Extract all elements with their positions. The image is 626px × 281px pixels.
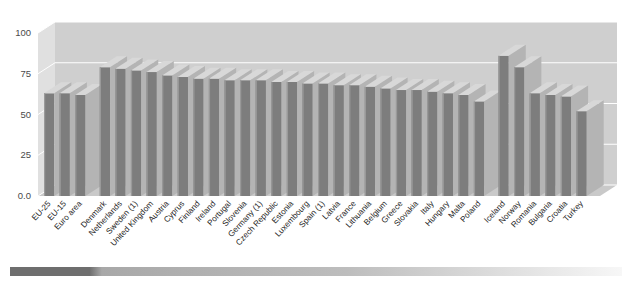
bar-chart-3d: 0.0255075100 EU-25EU-15Euro areaDenmarkN… <box>0 0 626 281</box>
y-axis-tick: 75 <box>20 68 31 79</box>
chart-container: 0.0255075100 EU-25EU-15Euro areaDenmarkN… <box>0 0 626 281</box>
bar[interactable] <box>474 90 501 196</box>
bar[interactable] <box>75 84 102 196</box>
y-axis-tick: 0.0 <box>18 190 31 201</box>
y-axis-tick: 25 <box>20 149 31 160</box>
y-axis-tick: 100 <box>15 27 31 38</box>
bar[interactable] <box>576 100 603 196</box>
y-axis-tick: 50 <box>20 109 31 120</box>
footer-gradient-bar <box>10 267 622 276</box>
